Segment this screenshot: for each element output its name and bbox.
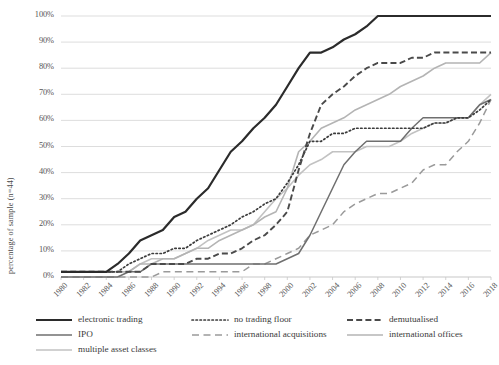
- plot-area: [0, 0, 499, 365]
- series-line-no-trading-floor: [61, 100, 491, 272]
- legend-item[interactable]: international acquisitions: [190, 327, 327, 342]
- series-line-multiple-asset-classes: [61, 94, 491, 271]
- legend-item-label: IPO: [78, 329, 93, 339]
- legend-swatch-icon: [34, 330, 74, 340]
- legend-item-label: multiple asset classes: [78, 344, 157, 354]
- legend-item[interactable]: electronic trading: [34, 312, 157, 327]
- legend-column: no trading floorinternational acquisitio…: [190, 312, 327, 342]
- legend-item[interactable]: multiple asset classes: [34, 342, 157, 357]
- legend-item-label: demutualised: [389, 314, 438, 324]
- legend-column: electronic tradingIPOmultiple asset clas…: [34, 312, 157, 357]
- legend-item-label: electronic trading: [78, 314, 143, 324]
- series-line-international-offices: [61, 53, 491, 272]
- series-line-demutualised: [61, 53, 491, 272]
- legend-item[interactable]: international offices: [345, 327, 463, 342]
- legend-item-label: international offices: [389, 329, 463, 339]
- legend-item[interactable]: IPO: [34, 327, 157, 342]
- line-chart: percentage of sample (n=44) 0%10%20%30%4…: [0, 0, 499, 365]
- legend-swatch-icon: [190, 330, 230, 340]
- legend-column: demutualisedinternational offices: [345, 312, 463, 342]
- legend-swatch-icon: [345, 330, 385, 340]
- legend-item-label: international acquisitions: [234, 329, 327, 339]
- legend-swatch-icon: [34, 345, 74, 355]
- legend-swatch-icon: [345, 315, 385, 325]
- chart-legend: electronic tradingIPOmultiple asset clas…: [34, 312, 496, 362]
- legend-item-label: no trading floor: [234, 314, 292, 324]
- legend-item[interactable]: no trading floor: [190, 312, 327, 327]
- legend-swatch-icon: [34, 315, 74, 325]
- series-line-electronic-trading: [61, 16, 491, 272]
- legend-swatch-icon: [190, 315, 230, 325]
- legend-item[interactable]: demutualised: [345, 312, 463, 327]
